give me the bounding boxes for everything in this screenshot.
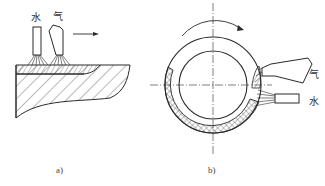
diagram-canvas [0, 0, 325, 186]
hardened-layer [16, 65, 100, 74]
arrow-right-icon [73, 32, 99, 36]
figure-a-gas-label: 气 [53, 12, 63, 22]
figure-b-caption: b) [208, 166, 216, 175]
figure-a-caption: a) [56, 166, 63, 175]
water-nozzle [33, 27, 41, 55]
flame-icon [50, 55, 70, 65]
gas-torch-nozzle [49, 25, 63, 55]
figure-b-gas-label: 气 [309, 70, 319, 80]
figure-b-water-label: 水 [309, 97, 319, 107]
figure-b [150, 3, 312, 155]
gas-torch-nozzle [262, 58, 312, 83]
water-spray-icon [28, 55, 48, 65]
figure-a-water-label: 水 [31, 13, 41, 23]
figure-a [16, 25, 130, 118]
hardened-ring-zone [165, 67, 259, 133]
water-nozzle [275, 94, 299, 103]
